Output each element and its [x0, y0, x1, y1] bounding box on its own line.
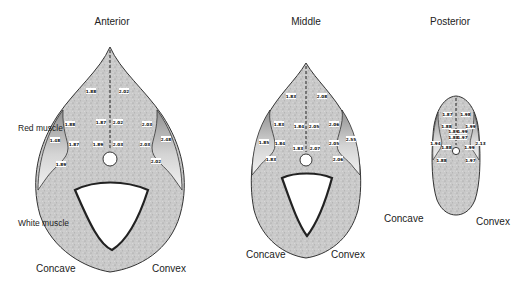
posterior-vertebra-hole	[452, 147, 459, 154]
svg-text:1.83: 1.83	[274, 122, 284, 127]
middle-vertebra-hole	[300, 154, 312, 166]
svg-text:1.48: 1.48	[50, 138, 60, 143]
posterior-section: Posterior 1.87 1.98 1.88 1.99 1.89 1.99 …	[384, 16, 510, 227]
svg-text:2.07: 2.07	[310, 146, 320, 151]
svg-text:1.88: 1.88	[436, 158, 446, 163]
anterior-convex-label: Convex	[152, 263, 186, 274]
svg-text:2.05: 2.05	[309, 124, 319, 129]
svg-text:1.94: 1.94	[430, 141, 440, 146]
svg-text:1.89: 1.89	[56, 162, 66, 167]
svg-text:2.03: 2.03	[113, 142, 123, 147]
cross-section-diagram: Anterior 1.88 2.02 1.88 1.87 2.02 2.03 1…	[0, 0, 516, 283]
middle-title: Middle	[291, 16, 321, 27]
svg-text:1.97: 1.97	[465, 158, 475, 163]
posterior-title: Posterior	[430, 16, 471, 27]
red-muscle-label: Red muscle	[18, 123, 63, 133]
white-muscle-label: White muscle	[18, 218, 69, 228]
svg-text:1.84: 1.84	[275, 141, 285, 146]
svg-text:2.03: 2.03	[140, 142, 150, 147]
svg-text:1.83: 1.83	[286, 94, 296, 99]
middle-convex-label: Convex	[331, 249, 365, 260]
svg-text:2.02: 2.02	[151, 159, 161, 164]
posterior-concave-label: Concave	[384, 213, 424, 224]
anterior-concave-label: Concave	[36, 263, 76, 274]
svg-text:1.84: 1.84	[294, 124, 304, 129]
svg-text:1.83: 1.83	[266, 157, 276, 162]
svg-text:1.87: 1.87	[69, 142, 79, 147]
svg-text:1.99: 1.99	[457, 129, 467, 134]
svg-text:1.87: 1.87	[442, 112, 452, 117]
svg-text:2.02: 2.02	[119, 89, 129, 94]
svg-text:1.87: 1.87	[96, 120, 106, 125]
posterior-convex-label: Convex	[476, 216, 510, 227]
svg-text:1.88: 1.88	[441, 145, 451, 150]
svg-text:1.97: 1.97	[457, 135, 467, 140]
anterior-vertebra-hole	[103, 152, 117, 166]
svg-text:2.08: 2.08	[317, 94, 327, 99]
svg-text:2.02: 2.02	[113, 120, 123, 125]
middle-section: Middle 1.83 2.08 1.83 1.84 2.05 2.06 1.8…	[246, 16, 365, 260]
svg-text:2.03: 2.03	[142, 122, 152, 127]
svg-text:1.83: 1.83	[293, 146, 303, 151]
svg-text:1.88: 1.88	[86, 89, 96, 94]
svg-text:2.06: 2.06	[329, 122, 339, 127]
svg-text:1.89: 1.89	[93, 142, 103, 147]
anterior-title: Anterior	[94, 16, 130, 27]
svg-text:2.06: 2.06	[333, 157, 343, 162]
svg-text:2.48: 2.48	[161, 137, 171, 142]
svg-text:2.55: 2.55	[346, 137, 356, 142]
svg-text:2.05: 2.05	[329, 141, 339, 146]
svg-text:1.85: 1.85	[259, 140, 269, 145]
svg-text:1.99: 1.99	[464, 145, 474, 150]
anterior-section: Anterior 1.88 2.02 1.88 1.87 2.02 2.03 1…	[18, 16, 186, 274]
svg-text:1.98: 1.98	[460, 112, 470, 117]
middle-concave-label: Concave	[246, 249, 286, 260]
svg-text:1.88: 1.88	[65, 122, 75, 127]
svg-text:2.13: 2.13	[475, 141, 485, 146]
